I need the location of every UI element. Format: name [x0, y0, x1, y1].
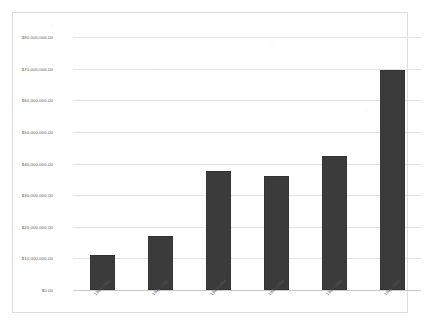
y-axis-tick-label: $80,000,000.00 [22, 35, 53, 40]
y-axis-tick-label: $60,000,000.00 [22, 98, 53, 103]
y-axis-tick-label: $70,000,000.00 [22, 66, 53, 71]
y-axis-tick-label: $30,000,000.00 [22, 193, 53, 198]
y-axis-tick-label: $10,000,000.00 [22, 256, 53, 261]
bar [380, 70, 405, 290]
bar [206, 171, 231, 290]
x-axis-tick-labels: 1989-19901991-19921993-19941995-19961997… [73, 290, 421, 327]
bar [264, 176, 289, 290]
y-axis-tick-label: $0.00 [42, 288, 53, 293]
y-axis-tick-label: $40,000,000.00 [22, 161, 53, 166]
y-axis-tick-label: $20,000,000.00 [22, 224, 53, 229]
bar-chart: $80,000,000.00$70,000,000.00$60,000,000.… [0, 0, 425, 327]
chart-frame: $80,000,000.00$70,000,000.00$60,000,000.… [12, 12, 408, 313]
bar-series [73, 37, 421, 290]
bar [322, 156, 347, 290]
y-axis-tick-label: $50,000,000.00 [22, 129, 53, 134]
